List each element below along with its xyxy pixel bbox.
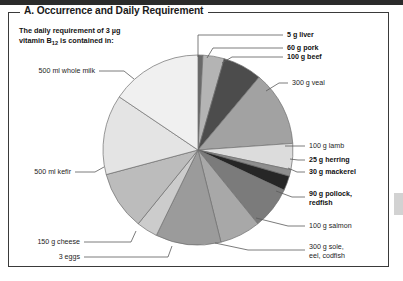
pie-slices bbox=[103, 55, 293, 245]
label-sole: 300 g sole, eel, codfish bbox=[309, 243, 345, 260]
leader-sole bbox=[215, 243, 305, 250]
label-pork: 60 g pork bbox=[287, 44, 319, 53]
leader-milk bbox=[99, 71, 134, 79]
side-tab-marker bbox=[394, 193, 403, 215]
leader-eggs bbox=[84, 246, 172, 257]
label-beef: 100 g beef bbox=[287, 53, 322, 62]
label-pollock-line-1: 90 g pollock, bbox=[309, 190, 352, 198]
label-kefir: 500 ml kefir bbox=[8, 168, 71, 177]
label-veal: 300 g veal bbox=[292, 79, 325, 88]
label-liver: 5 g liver bbox=[287, 31, 314, 40]
leader-pork bbox=[207, 48, 283, 58]
label-pollock-line-2: redfish bbox=[309, 199, 333, 207]
label-eggs: 3 eggs bbox=[28, 253, 80, 262]
label-milk: 500 ml whole milk bbox=[10, 67, 95, 76]
label-cheese: 150 g cheese bbox=[15, 238, 80, 247]
label-sole-line-1: 300 g sole, bbox=[309, 243, 344, 251]
label-salmon: 100 g salmon bbox=[309, 222, 352, 231]
label-lamb: 100 g lamb bbox=[309, 142, 344, 151]
label-herring: 25 g herring bbox=[309, 156, 350, 165]
leader-cheese bbox=[84, 231, 136, 242]
label-mackerel: 30 g mackerel bbox=[309, 168, 356, 177]
leader-kefir bbox=[75, 167, 104, 172]
label-sole-line-2: eel, codfish bbox=[309, 252, 345, 260]
leader-liver bbox=[198, 35, 283, 57]
label-pollock: 90 g pollock, redfish bbox=[309, 190, 352, 207]
